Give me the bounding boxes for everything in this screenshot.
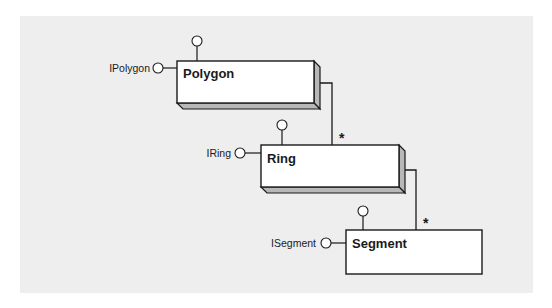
association-ring-segment: * — [405, 170, 429, 231]
interface-label: IPolygon — [109, 62, 150, 74]
uml-diagram: * * IPolygon Polygon IRing Ring ISegment — [0, 0, 552, 308]
interface-lollipop-icon — [358, 206, 368, 216]
interface-lollipop-icon — [321, 238, 331, 248]
interface-lollipop-icon — [235, 148, 245, 158]
association-polygon-ring: * — [320, 83, 345, 146]
multiplicity-label: * — [423, 215, 429, 231]
class-name: Segment — [352, 236, 408, 251]
interface-label: ISegment — [271, 237, 316, 249]
class-segment[interactable]: ISegment Segment — [271, 206, 482, 274]
interface-lollipop-icon — [153, 63, 163, 73]
class-name: Polygon — [183, 66, 234, 81]
class-polygon[interactable]: IPolygon Polygon — [109, 36, 320, 109]
class-ring[interactable]: IRing Ring — [206, 120, 405, 193]
multiplicity-label: * — [339, 130, 345, 146]
interface-label: IRing — [206, 147, 231, 159]
class-name: Ring — [267, 151, 296, 166]
interface-lollipop-icon — [192, 36, 202, 46]
interface-lollipop-icon — [277, 120, 287, 130]
